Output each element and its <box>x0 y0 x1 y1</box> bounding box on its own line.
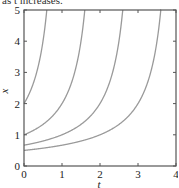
tick-label: 2 <box>15 98 21 110</box>
tick-label: 4 <box>173 168 178 180</box>
tick-label: 1 <box>15 129 21 141</box>
solution-curve <box>24 10 47 104</box>
y-axis-label: x <box>0 88 10 94</box>
tick-label: 4 <box>15 35 21 47</box>
solution-curves <box>24 10 161 150</box>
solution-curve <box>24 10 85 135</box>
tick-label: 0 <box>15 160 21 172</box>
tick-label: 5 <box>15 4 21 16</box>
plot-frame <box>24 10 176 166</box>
tick-labels: 01234012345 <box>15 4 179 180</box>
tick-label: 3 <box>135 168 141 180</box>
axis-ticks <box>24 10 176 166</box>
line-chart: 01234012345 t x <box>0 0 178 188</box>
tick-label: 3 <box>15 66 21 78</box>
tick-label: 1 <box>59 168 65 180</box>
tick-label: 0 <box>21 168 27 180</box>
